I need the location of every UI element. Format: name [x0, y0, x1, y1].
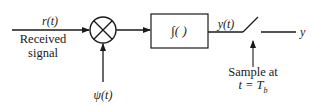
input-caption-line1: Received [20, 33, 67, 46]
integrator-output-label: y(t) [218, 18, 235, 30]
integrator-label: ∫( ) [171, 24, 186, 37]
input-caption-line2: signal [28, 47, 58, 60]
output-label: y [300, 26, 305, 38]
sampler-switch-icon [243, 17, 258, 32]
sampler-caption-line1: Sample at [228, 66, 278, 79]
reference-signal-label: ψ(t) [94, 89, 113, 101]
multiplier-icon [90, 17, 116, 43]
sampler-subscript: b [264, 86, 268, 95]
sampler-time-text: t = T [238, 78, 263, 92]
sampler-caption-line2: t = Tb [238, 79, 267, 95]
input-signal-label: r(t) [42, 15, 58, 27]
